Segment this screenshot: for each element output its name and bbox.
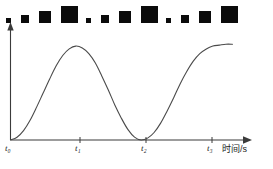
x-axis-title: 时间/s [222,145,247,154]
x-tick-label-t3: t₃ [207,144,213,153]
x-tick-label-t2: t₂ [141,144,147,153]
x-tick-label-t1: t₁ [75,144,81,153]
x-tick-label-t0: t₀ [5,144,11,153]
y-axis-arrowhead [7,22,13,31]
physics-figure: t₀ t₁ t₂ t₃ 时间/s [0,0,273,169]
displacement-curve [11,44,233,140]
x-axis-arrowhead [243,136,252,144]
displacement-time-graph: t₀ t₁ t₂ t₃ 时间/s [0,18,273,169]
